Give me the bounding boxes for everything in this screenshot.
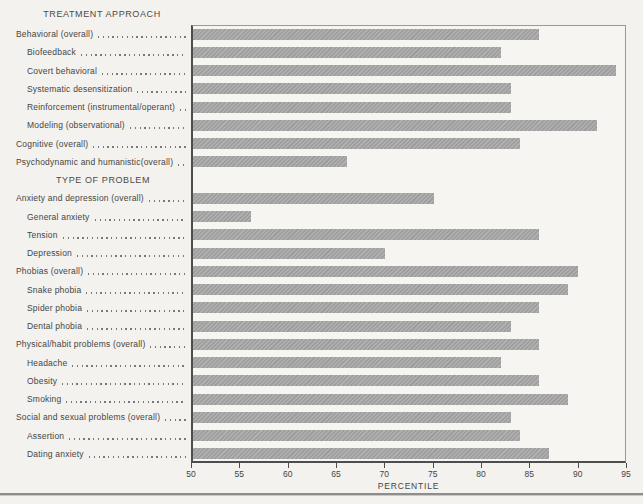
row-label: Phobias (overall)	[16, 266, 83, 276]
bar-row: Assertion	[0, 427, 643, 445]
dotted-leader	[88, 273, 186, 275]
percentile-bar	[193, 302, 539, 313]
dotted-leader	[137, 91, 186, 93]
percentile-bar	[193, 339, 539, 350]
bar-row: Systematic desensitization	[0, 80, 643, 98]
percentile-bar	[193, 29, 539, 40]
percentile-bar	[193, 138, 520, 149]
percentile-bar	[193, 266, 578, 277]
dotted-leader	[180, 109, 186, 111]
row-label: Depression	[27, 248, 72, 258]
bar-row: Cognitive (overall)	[0, 135, 643, 153]
row-label: Physical/habit problems (overall)	[16, 339, 145, 349]
row-label-wrap: Depression	[27, 244, 187, 262]
percentile-bar	[193, 321, 511, 332]
row-label: Social and sexual problems (overall)	[16, 412, 160, 422]
bar-row: Dental phobia	[0, 317, 643, 335]
dotted-leader	[95, 219, 186, 221]
row-label-wrap: Tension	[27, 226, 187, 244]
percentile-bar	[193, 102, 511, 113]
percentile-bar	[193, 47, 501, 58]
row-label-wrap: Dental phobia	[27, 317, 187, 335]
bar-row: Anxiety and depression (overall)	[0, 189, 643, 207]
bar-row: Biofeedback	[0, 43, 643, 61]
row-label-wrap: Obesity	[27, 372, 187, 390]
row-label-wrap: Behavioral (overall)	[16, 25, 187, 43]
percentile-bar	[193, 357, 501, 368]
bottom-rule	[0, 493, 643, 495]
x-tick	[481, 463, 482, 468]
percentile-bar	[193, 375, 539, 386]
row-label-wrap: Cognitive (overall)	[16, 135, 187, 153]
x-tick-label: 60	[283, 469, 292, 479]
bar-row: General anxiety	[0, 208, 643, 226]
bar-row: Reinforcement (instrumental/operant)	[0, 98, 643, 116]
section-heading-type-of-problem: TYPE OF PROBLEM	[0, 171, 192, 189]
row-label-wrap: Smoking	[27, 390, 187, 408]
row-label: Biofeedback	[27, 47, 76, 57]
row-label: Behavioral (overall)	[16, 29, 93, 39]
bar-row: Covert behavioral	[0, 62, 643, 80]
row-label-wrap: Spider phobia	[27, 299, 187, 317]
bar-row: Behavioral (overall)	[0, 25, 643, 43]
bar-row: Depression	[0, 244, 643, 262]
chart-rows: Behavioral (overall)BiofeedbackCovert be…	[0, 25, 643, 463]
section-heading-treatment-approach: TREATMENT APPROACH	[0, 9, 192, 19]
x-tick	[578, 463, 579, 468]
bar-row: Tension	[0, 226, 643, 244]
percentile-bar	[193, 229, 539, 240]
percentile-bar	[193, 156, 347, 167]
x-tick-label: 65	[331, 469, 340, 479]
x-tick	[288, 463, 289, 468]
row-label-wrap: Reinforcement (instrumental/operant)	[27, 98, 187, 116]
bar-row: Modeling (observational)	[0, 116, 643, 134]
row-label: Dental phobia	[27, 321, 82, 331]
x-tick-label: 75	[428, 469, 437, 479]
x-tick	[433, 463, 434, 468]
row-label-wrap: General anxiety	[27, 208, 187, 226]
row-label: Spider phobia	[27, 303, 82, 313]
percentile-bar	[193, 448, 549, 459]
row-label-wrap: Social and sexual problems (overall)	[16, 408, 187, 426]
percentile-bar	[193, 248, 385, 259]
x-tick-label: 90	[573, 469, 582, 479]
x-tick-label: 85	[525, 469, 534, 479]
percentile-bar	[193, 394, 568, 405]
x-tick-label: 70	[380, 469, 389, 479]
dotted-leader	[102, 73, 186, 75]
dotted-leader	[87, 310, 186, 312]
row-label-wrap: Covert behavioral	[27, 62, 187, 80]
percentile-bar	[193, 211, 251, 222]
bar-row: Snake phobia	[0, 281, 643, 299]
row-label: Snake phobia	[27, 285, 81, 295]
scanned-bar-chart-page: TREATMENT APPROACH Behavioral (overall)B…	[0, 0, 643, 504]
x-tick	[626, 463, 627, 468]
dotted-leader	[165, 419, 186, 421]
row-label-wrap: Anxiety and depression (overall)	[16, 189, 187, 207]
percentile-bar	[193, 412, 511, 423]
row-label: Dating anxiety	[27, 449, 84, 459]
row-label: Tension	[27, 230, 58, 240]
row-label-wrap: Dating anxiety	[27, 445, 187, 463]
row-label: Systematic desensitization	[27, 84, 132, 94]
x-tick	[191, 463, 192, 468]
dotted-leader	[178, 164, 186, 166]
row-label: Anxiety and depression (overall)	[16, 193, 144, 203]
row-label: Smoking	[27, 394, 61, 404]
dotted-leader	[72, 365, 186, 367]
bar-row: Social and sexual problems (overall)	[0, 408, 643, 426]
x-axis-title: PERCENTILE	[191, 481, 626, 491]
x-tick-label: 95	[621, 469, 630, 479]
percentile-bar	[193, 193, 434, 204]
row-label: Modeling (observational)	[27, 120, 125, 130]
x-tick-label: 80	[476, 469, 485, 479]
row-label-wrap: Modeling (observational)	[27, 116, 187, 134]
row-label: Cognitive (overall)	[16, 139, 88, 149]
bar-row: Smoking	[0, 390, 643, 408]
dotted-leader	[62, 383, 186, 385]
dotted-leader	[150, 346, 186, 348]
dotted-leader	[66, 401, 186, 403]
percentile-bar	[193, 284, 568, 295]
x-tick-label: 55	[235, 469, 244, 479]
row-label-wrap: Headache	[27, 354, 187, 372]
